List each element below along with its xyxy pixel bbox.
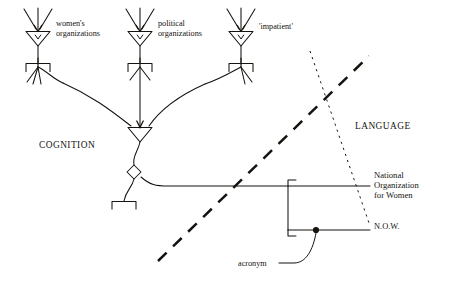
neuron-label-womens-organizations: women's organizations — [56, 19, 100, 38]
annotation-label-acronym: acronym — [238, 259, 267, 269]
convergence-axon-paths — [63, 83, 205, 126]
neuron-group-political — [126, 8, 154, 128]
neuron-group-impatient — [205, 8, 255, 84]
diagram-figure: women's organizations political organiza… — [0, 0, 453, 289]
lexical-label-full-form: National Organization for Women — [374, 170, 419, 200]
lexical-label-acronym: N.O.W. — [374, 222, 400, 232]
neuron-label-political-organizations: political organizations — [158, 19, 202, 38]
acronym-leader-line — [279, 233, 316, 263]
lexical-bracket-group — [288, 180, 370, 236]
acronym-node-dot — [313, 227, 319, 233]
dotted-boundary-line — [310, 51, 369, 223]
cognition-output-neuron — [112, 121, 370, 209]
domain-label-cognition: COGNITION — [39, 140, 95, 151]
neuron-label-impatient: 'impatient' — [259, 22, 293, 32]
domain-label-language: LANGUAGE — [355, 121, 411, 132]
